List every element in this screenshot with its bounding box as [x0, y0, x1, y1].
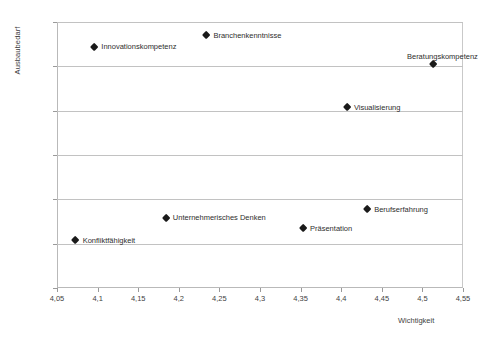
data-point-label: Konfliktfähigkeit — [83, 236, 136, 245]
x-tick-mark — [463, 288, 464, 292]
data-point-label: Präsentation — [310, 224, 352, 233]
data-point-label: Innovationskompetenz — [101, 42, 176, 51]
gridline-horizontal — [57, 155, 463, 156]
x-tick-mark — [98, 288, 99, 292]
data-point-label: Branchenkenntnisse — [213, 31, 281, 40]
x-tick-mark — [219, 288, 220, 292]
x-tick-label: 4,15 — [118, 294, 158, 303]
gridline-horizontal — [57, 66, 463, 67]
data-point-label: Visualisierung — [354, 103, 401, 112]
x-tick-mark — [179, 288, 180, 292]
y-tick-mark — [53, 111, 57, 112]
x-tick-mark — [382, 288, 383, 292]
data-point-label: Unternehmerisches Denken — [173, 213, 266, 222]
x-tick-mark — [341, 288, 342, 292]
x-tick-label: 4,1 — [78, 294, 118, 303]
x-tick-mark — [301, 288, 302, 292]
x-tick-label: 4,2 — [159, 294, 199, 303]
x-tick-mark — [57, 288, 58, 292]
x-tick-label: 4,3 — [240, 294, 280, 303]
y-tick-mark — [53, 244, 57, 245]
gridline-horizontal — [57, 199, 463, 200]
scatter-chart: Ausbaubedarf Wichtigkeit 20%25%30%35%40%… — [0, 0, 480, 340]
x-tick-label: 4,45 — [362, 294, 402, 303]
x-tick-label: 4,05 — [37, 294, 77, 303]
x-tick-label: 4,55 — [443, 294, 480, 303]
x-tick-mark — [260, 288, 261, 292]
gridline-horizontal — [57, 22, 463, 23]
x-axis-title: Wichtigkeit — [398, 316, 434, 325]
data-point-label: Berufserfahrung — [374, 205, 428, 214]
x-tick-label: 4,25 — [199, 294, 239, 303]
y-tick-mark — [53, 199, 57, 200]
y-tick-mark — [53, 155, 57, 156]
y-tick-mark — [53, 22, 57, 23]
gridline-horizontal — [57, 111, 463, 112]
y-axis-title: Ausbaubedarf — [13, 1, 22, 101]
x-tick-label: 4,4 — [321, 294, 361, 303]
x-tick-label: 4,5 — [402, 294, 442, 303]
x-tick-mark — [138, 288, 139, 292]
x-tick-label: 4,35 — [281, 294, 321, 303]
data-point-label: Beratungskompetenz — [407, 52, 478, 61]
plot-area: 20%25%30%35%40%45%50%4,054,14,154,24,254… — [57, 22, 463, 288]
x-tick-mark — [422, 288, 423, 292]
y-tick-mark — [53, 66, 57, 67]
